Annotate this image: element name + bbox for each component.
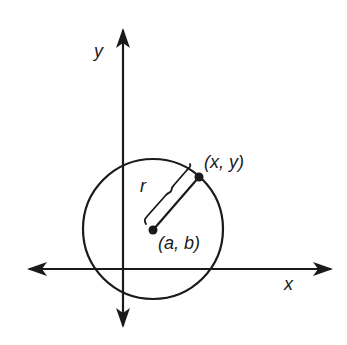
circle-point [195, 173, 204, 182]
center-label: (a, b) [158, 233, 200, 253]
center-point [149, 226, 158, 235]
circle-diagram: y x (x, y) (a, b) r [0, 0, 347, 345]
point-label: (x, y) [204, 152, 244, 172]
radius-label: r [140, 176, 147, 196]
radius-segment [153, 177, 199, 230]
y-axis-label: y [92, 41, 104, 61]
x-axis-label: x [283, 274, 294, 294]
